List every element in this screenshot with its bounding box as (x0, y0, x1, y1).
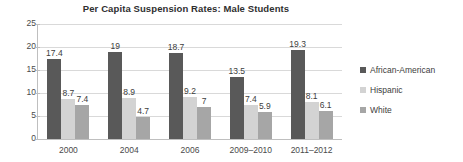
bar-value-label: 7 (189, 97, 219, 106)
bar-group: 198.94.7 (108, 24, 150, 139)
bar[interactable] (230, 77, 244, 139)
bar[interactable] (197, 107, 211, 139)
legend-label: White (370, 105, 392, 115)
legend-swatch-icon (360, 67, 366, 73)
bar-value-label: 19 (100, 42, 130, 51)
bar[interactable] (319, 111, 333, 139)
x-axis-label: 2011–2012 (275, 145, 349, 155)
bar[interactable] (169, 53, 183, 139)
plot-area: 17.48.77.4198.94.718.79.2713.57.45.919.3… (38, 24, 342, 139)
chart-title: Per Capita Suspension Rates: Male Studen… (0, 3, 372, 14)
y-axis-line (37, 24, 38, 140)
bar-value-label: 18.7 (161, 43, 191, 52)
bar[interactable] (47, 59, 61, 139)
bar-value-label: 6.1 (311, 101, 341, 110)
legend-item[interactable]: Hispanic (360, 80, 460, 100)
bar[interactable] (136, 117, 150, 139)
y-axis-label: 25 (16, 19, 36, 28)
bar-group: 19.38.16.1 (291, 24, 333, 139)
legend-label: African-American (370, 65, 435, 75)
y-axis-label: 15 (16, 65, 36, 74)
bar-value-label: 7.4 (67, 95, 97, 104)
bar-value-label: 19.3 (283, 40, 313, 49)
y-axis-tick (36, 70, 40, 71)
legend-label: Hispanic (370, 85, 403, 95)
bar[interactable] (258, 112, 272, 139)
y-axis-tick (36, 24, 40, 25)
y-axis-label: 10 (16, 88, 36, 97)
bar-value-label: 17.4 (39, 49, 69, 58)
bar-group: 18.79.27 (169, 24, 211, 139)
bar[interactable] (122, 98, 136, 139)
y-axis-tick (36, 47, 40, 48)
bar-value-label: 4.7 (128, 107, 158, 116)
legend-item[interactable]: White (360, 100, 460, 120)
legend-swatch-icon (360, 107, 366, 113)
bar-chart: Per Capita Suspension Rates: Male Studen… (0, 0, 463, 162)
bar-group: 17.48.77.4 (47, 24, 89, 139)
bar-value-label: 5.9 (250, 102, 280, 111)
bar-group: 13.57.45.9 (230, 24, 272, 139)
bar-value-label: 8.9 (114, 88, 144, 97)
bar[interactable] (61, 99, 75, 139)
y-axis-label: 20 (16, 42, 36, 51)
bar-value-label: 13.5 (222, 67, 252, 76)
y-axis-tick (36, 116, 40, 117)
chart-legend: African-AmericanHispanicWhite (360, 60, 460, 120)
legend-swatch-icon (360, 87, 366, 93)
x-axis-line (38, 139, 342, 140)
bar-value-label: 9.2 (175, 87, 205, 96)
bar[interactable] (75, 105, 89, 139)
legend-item[interactable]: African-American (360, 60, 460, 80)
y-axis-label: 5 (16, 111, 36, 120)
y-axis-tick (36, 93, 40, 94)
y-axis-label: 0 (16, 134, 36, 143)
